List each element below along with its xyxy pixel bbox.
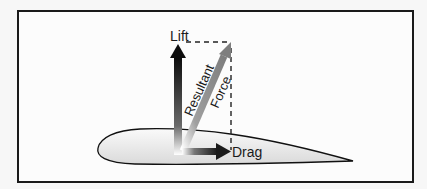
drag-label: Drag xyxy=(232,144,262,160)
airfoil-shape xyxy=(98,129,353,165)
lift-drag-diagram: Resultant Force xyxy=(0,0,427,189)
lift-label: Lift xyxy=(170,28,189,44)
